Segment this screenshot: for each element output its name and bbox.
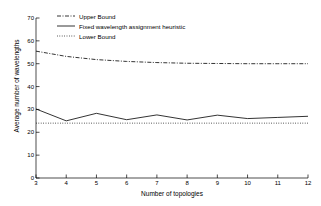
- legend-item[interactable]: Fixed wavelength assignment heuristic: [57, 21, 237, 31]
- x-tick-label: 10: [240, 180, 256, 187]
- legend-label: Upper Bound: [79, 13, 115, 20]
- legend-item[interactable]: Upper Bound: [57, 11, 237, 21]
- legend-label: Lower Bound: [79, 33, 115, 40]
- legend-line-sample-icon: [57, 12, 75, 20]
- chart-legend: Upper BoundFixed wavelength assignment h…: [57, 11, 237, 41]
- y-tick-label: 50: [16, 61, 34, 67]
- x-tick-label: 9: [209, 180, 225, 187]
- x-tick-label: 7: [149, 180, 165, 187]
- legend-line-sample-icon: [57, 22, 75, 30]
- x-tick-label: 5: [88, 180, 104, 187]
- legend-line-sample-icon: [57, 32, 75, 40]
- data-series-group: [36, 51, 308, 123]
- y-tick-label: 40: [16, 84, 34, 90]
- x-axis-tick-marks: [36, 175, 308, 179]
- legend-item[interactable]: Lower Bound: [57, 31, 237, 41]
- plot-canvas: [36, 18, 308, 178]
- y-axis-tick-labels: 010203040506070: [12, 18, 34, 178]
- plot-area: [36, 18, 308, 178]
- x-tick-label: 11: [270, 180, 286, 187]
- y-axis-tick-marks: [36, 18, 40, 178]
- legend-label: Fixed wavelength assignment heuristic: [79, 23, 185, 30]
- x-tick-label: 3: [28, 180, 44, 187]
- x-axis-label: Number of topologies: [36, 190, 308, 198]
- y-tick-label: 70: [16, 15, 34, 21]
- y-tick-label: 20: [16, 129, 34, 135]
- axis-lines: [36, 18, 308, 178]
- x-tick-label: 12: [300, 180, 316, 187]
- y-tick-label: 10: [16, 152, 34, 158]
- y-tick-label: 30: [16, 106, 34, 112]
- series-line: [36, 51, 308, 64]
- x-tick-label: 8: [179, 180, 195, 187]
- series-line: [36, 109, 308, 121]
- x-tick-label: 4: [58, 180, 74, 187]
- x-tick-label: 6: [119, 180, 135, 187]
- y-tick-label: 60: [16, 38, 34, 44]
- figure: Average number of wavelengths 0102030405…: [0, 0, 321, 206]
- x-axis-tick-labels: 3456789101112: [36, 180, 308, 190]
